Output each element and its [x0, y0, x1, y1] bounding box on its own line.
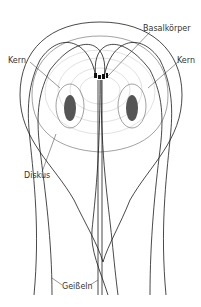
flagella	[28, 42, 171, 295]
label-kern-left: Kern	[8, 56, 26, 65]
label-basalkoerper: Basalkörper	[143, 24, 191, 33]
nucleus-right	[126, 95, 138, 121]
giardia-diagram: Basalkörper Kern Kern Diskus Geißeln	[0, 0, 201, 307]
label-kern-right: Kern	[177, 56, 195, 65]
label-diskus: Diskus	[24, 171, 50, 180]
nucleus-left	[64, 95, 76, 121]
basal-bodies	[94, 73, 108, 79]
label-geisseln: Geißeln	[62, 282, 93, 291]
